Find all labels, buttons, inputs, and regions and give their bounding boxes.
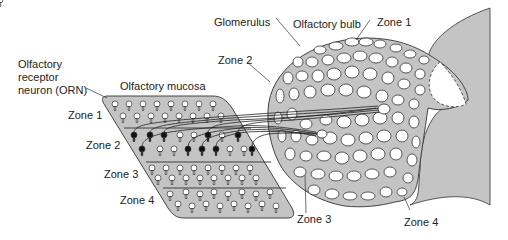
bulb-zone4-label: Zone 4 bbox=[404, 216, 438, 229]
bulb-label: Olfactory bulb bbox=[293, 18, 361, 31]
bulb-zone3-label: Zone 3 bbox=[297, 213, 331, 226]
mucosa-zone3-label: Zone 3 bbox=[104, 168, 138, 181]
glomerulus-label: Glomerulus bbox=[214, 16, 270, 29]
bulb-zone1-label: Zone 1 bbox=[377, 16, 411, 29]
orn-label-line3: neuron (ORN) bbox=[18, 84, 87, 97]
mucosa-zone2-label: Zone 2 bbox=[86, 139, 120, 152]
bulb-zone2-label: Zone 2 bbox=[218, 54, 252, 67]
mucosa-zone1-label: Zone 1 bbox=[68, 109, 102, 122]
orn-label-line1: Olfactory bbox=[18, 58, 87, 71]
mucosa-zone4-label: Zone 4 bbox=[120, 194, 154, 207]
zone1-neurons bbox=[0, 0, 3, 7]
orn-label: Olfactory receptor neuron (ORN) bbox=[18, 58, 87, 97]
orn-label-line2: receptor bbox=[18, 71, 87, 84]
mucosa-label: Olfactory mucosa bbox=[120, 80, 206, 93]
